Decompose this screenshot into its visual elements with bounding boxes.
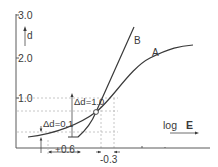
x-axis-label-prefix: log	[163, 119, 177, 131]
y-tick-label-2: 2.0	[18, 52, 33, 64]
shift-large-annotation: -0.3	[96, 151, 120, 165]
delta-d-large-annotation: Δd=1.0	[71, 93, 105, 137]
arrowhead-left-icon	[114, 151, 117, 153]
y-axis-label: d	[27, 30, 33, 41]
x-axis-label-var: E	[186, 119, 193, 131]
curve-b-label: B	[134, 35, 141, 46]
y-tick-label-1: 1.0	[18, 92, 33, 104]
arrowhead-down-icon	[40, 129, 43, 133]
x-axis-label-group: log E	[163, 119, 199, 135]
arrowhead-right-icon	[98, 151, 101, 153]
shift-large-label: -0.3	[100, 154, 118, 165]
curve-a-label: A	[152, 47, 159, 58]
intersection-marker	[94, 110, 99, 115]
characteristic-curve-figure: 3.0 2.0 1.0 d A B Δd=1.0 Δd=0.1 + 0.6	[0, 0, 218, 167]
arrowhead-left-icon	[48, 151, 52, 154]
delta-d-small-label: Δd=0.1	[43, 118, 73, 129]
y-axis-label-group: d	[23, 26, 32, 46]
delta-d-large-label: Δd=1.0	[74, 96, 104, 107]
y-tick-label-3: 3.0	[18, 9, 33, 21]
arrowhead-up-icon	[40, 137, 43, 141]
arrowhead-right-icon	[78, 151, 82, 154]
arrowhead-right-icon	[195, 131, 199, 134]
shift-small-label: 0.6	[61, 144, 75, 155]
